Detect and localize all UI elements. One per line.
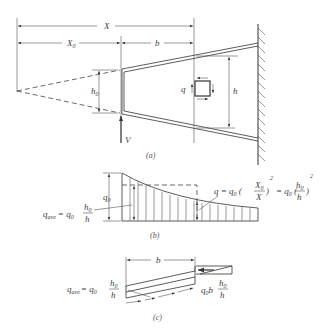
- dimension-q0: q0: [103, 173, 121, 221]
- svg-text:X0: X0: [254, 180, 264, 191]
- svg-text:qave= q0: qave= q0: [67, 284, 97, 295]
- label-q: q: [181, 84, 186, 94]
- label-q0: q0: [103, 192, 111, 203]
- shear-flow-formula: q = q0 ( X0 X ) 2 = q0 ( h0 h ) 2: [214, 173, 313, 202]
- svg-text:b: b: [156, 255, 161, 265]
- dimension-X0: X0: [18, 38, 120, 49]
- svg-text:h: h: [85, 214, 90, 224]
- dimension-b-c: b: [127, 255, 194, 265]
- caption-c: (c): [153, 313, 162, 322]
- caption-a: (a): [146, 151, 156, 160]
- part-c: b qave= q0 h0: [67, 255, 232, 322]
- label-V: V: [125, 135, 132, 145]
- svg-text:h: h: [297, 192, 302, 202]
- fixed-wall: [258, 24, 265, 165]
- label-qave-b: qave= q0 h0 h: [43, 202, 93, 224]
- svg-text:h0: h0: [296, 180, 304, 191]
- label-X: X: [103, 21, 110, 31]
- dimension-h0: h0: [91, 70, 118, 113]
- caption-b: (b): [150, 231, 160, 240]
- dimension-b: b: [122, 38, 193, 48]
- svg-text:h0: h0: [219, 278, 227, 289]
- svg-text:2: 2: [310, 173, 313, 179]
- shear-hatching: [130, 178, 250, 221]
- svg-text:): ): [305, 186, 309, 196]
- tapered-beam-diagram: X X0 b h0: [0, 0, 323, 328]
- label-b: b: [155, 38, 160, 48]
- qave-leader: [94, 205, 132, 210]
- part-b: q0 qave= q0 h0 h q = q0 ( X0 X ) 2 = q0 …: [43, 173, 313, 240]
- flange-block: [196, 266, 232, 274]
- dimension-h: h: [196, 56, 238, 128]
- svg-text:h0: h0: [84, 202, 92, 213]
- svg-text:qave= q0: qave= q0: [43, 209, 74, 220]
- svg-text:= q0 (: = q0 (: [276, 186, 298, 197]
- svg-text:h: h: [111, 290, 116, 300]
- label-flange-force: q0b h0 h: [201, 278, 228, 300]
- dimension-X: X: [18, 21, 193, 31]
- svg-text:q0b: q0b: [201, 285, 214, 296]
- label-h0: h0: [91, 86, 99, 97]
- load-arrow-V: V: [121, 116, 132, 145]
- shear-flow-arrows: [126, 288, 193, 303]
- label-h: h: [233, 86, 238, 96]
- shear-element: q: [181, 78, 213, 99]
- label-X0: X0: [66, 38, 76, 49]
- part-a: X X0 b h0: [17, 18, 265, 165]
- svg-text:X: X: [255, 192, 262, 202]
- dashed-projection-top: [17, 70, 120, 91]
- dashed-projection-bottom: [17, 91, 120, 113]
- tapered-beam: [122, 43, 258, 141]
- web-panel: [126, 266, 195, 298]
- svg-text:2: 2: [270, 175, 273, 181]
- svg-text:q = q0 (: q = q0 (: [214, 186, 243, 197]
- svg-text:): ): [265, 186, 269, 196]
- label-qave-c: qave= q0 h0 h: [67, 278, 119, 300]
- svg-text:h0: h0: [110, 278, 118, 289]
- svg-text:h: h: [220, 290, 225, 300]
